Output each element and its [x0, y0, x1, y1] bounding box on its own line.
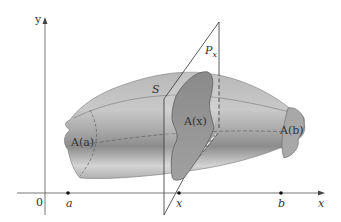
plane-subscript: x [212, 50, 217, 59]
solid-label: S [152, 83, 160, 96]
point-x [177, 191, 181, 195]
cross-section-a-label: A(a) [70, 136, 94, 149]
y-axis-label: y [34, 13, 42, 26]
cross-section-x-label: A(x) [183, 115, 207, 128]
point-b-label: b [278, 197, 285, 210]
cross-section-b-label: A(b) [279, 124, 304, 137]
point-b [279, 191, 283, 195]
point-a-label: a [66, 197, 73, 210]
origin-label: 0 [36, 196, 43, 209]
point-x-label: x [176, 197, 183, 210]
x-axis-label: x [318, 197, 325, 210]
y-axis [43, 17, 48, 215]
solid-diagram: y 0 a x b x S Px A(a) A(x) A(b) [0, 0, 341, 222]
point-a [66, 191, 70, 195]
